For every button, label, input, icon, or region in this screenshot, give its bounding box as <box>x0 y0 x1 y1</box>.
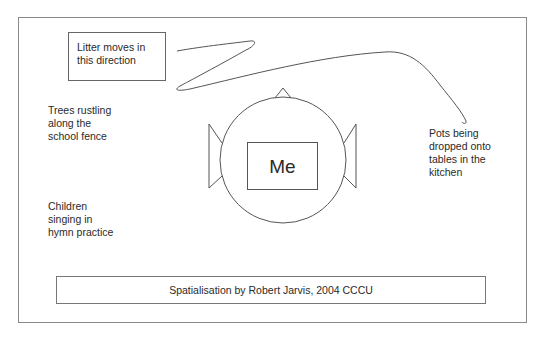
caption-text: Spatialisation by Robert Jarvis, 2004 CC… <box>169 284 373 296</box>
spatialisation-diagram: Litter moves in this direction Trees rus… <box>0 0 544 338</box>
caption-box: Spatialisation by Robert Jarvis, 2004 CC… <box>56 276 486 304</box>
litter-movement-path <box>177 41 466 124</box>
me-box: Me <box>247 142 318 190</box>
trees-label: Trees rustling along the school fence <box>48 104 111 143</box>
litter-label: Litter moves in this direction <box>77 41 145 67</box>
children-label: Children singing in hymn practice <box>48 200 113 239</box>
me-label: Me <box>269 157 295 176</box>
litter-label-box: Litter moves in this direction <box>68 32 166 81</box>
pots-label: Pots being dropped onto tables in the ki… <box>429 127 491 179</box>
